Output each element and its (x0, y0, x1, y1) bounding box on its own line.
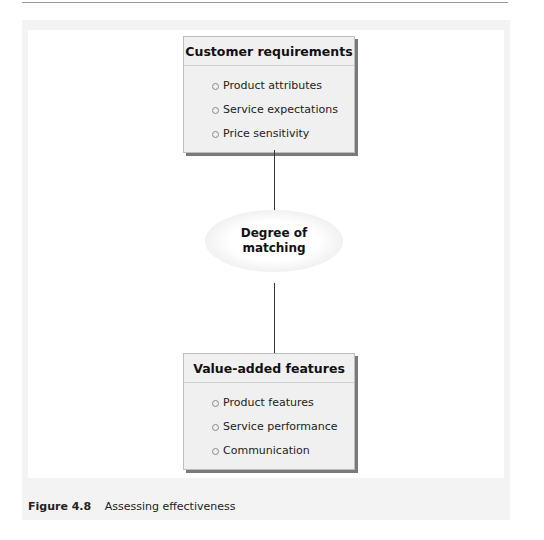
connector-line-bottom (274, 283, 275, 353)
page-header-rule (22, 2, 508, 3)
box-title: Customer requirements (184, 37, 354, 66)
list-item: Communication (212, 439, 354, 463)
requirements-list: Product attributes Service expectations … (184, 66, 354, 152)
bullet-icon (212, 107, 219, 114)
customer-requirements-box: Customer requirements Product attributes… (183, 36, 355, 153)
bullet-icon (212, 424, 219, 431)
features-list: Product features Service performance Com… (184, 383, 354, 469)
figure-label: Figure 4.8 (28, 500, 91, 513)
figure-title: Assessing effectiveness (105, 500, 236, 513)
bullet-icon (212, 83, 219, 90)
list-item: Price sensitivity (212, 122, 354, 146)
list-item: Service expectations (212, 98, 354, 122)
connector-line-top (274, 150, 275, 210)
list-item: Service performance (212, 415, 354, 439)
matching-label: Degree of matching (205, 226, 343, 256)
bullet-icon (212, 448, 219, 455)
list-item: Product features (212, 391, 354, 415)
list-item: Product attributes (212, 74, 354, 98)
value-added-features-box: Value-added features Product features Se… (183, 353, 355, 470)
figure-caption: Figure 4.8 Assessing effectiveness (28, 500, 235, 513)
box-title: Value-added features (184, 354, 354, 383)
bullet-icon (212, 131, 219, 138)
bullet-icon (212, 400, 219, 407)
